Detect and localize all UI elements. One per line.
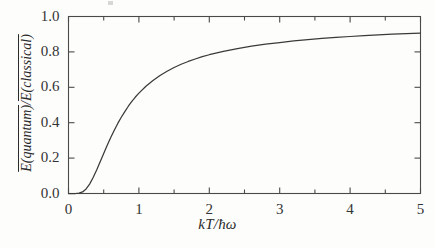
x-tick-label: 0 (59, 202, 79, 217)
plot-frame (69, 17, 421, 194)
data-curve-line (69, 33, 421, 193)
y-axis-ticks (69, 52, 421, 158)
y-axis-label: E(quantum)/E(classical) (19, 13, 35, 193)
x-tick-label: 4 (340, 202, 360, 217)
x-axis-ticks (69, 17, 421, 194)
x-axis-label: kT/ħω (0, 216, 435, 233)
y-axis-label-slash: / (19, 101, 35, 105)
y-axis-label-denominator: E(classical) (19, 34, 34, 101)
x-tick-label: 1 (129, 202, 149, 217)
x-tick-label: 3 (270, 202, 290, 217)
x-tick-label: 5 (411, 202, 431, 217)
chart-figure: 0.00.20.40.60.81.0 012345 kT/ħω E(quantu… (0, 0, 435, 248)
x-tick-label: 2 (199, 202, 219, 217)
y-axis-label-numerator: E(quantum) (19, 105, 34, 172)
